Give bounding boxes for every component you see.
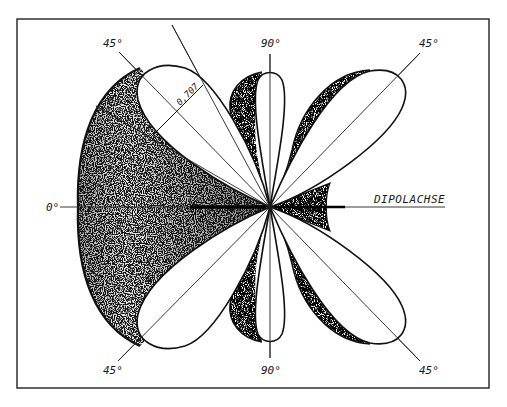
label-90-top: 90°: [261, 37, 281, 50]
label-45-bottom-left: 45°: [103, 364, 123, 377]
label-45-top-right: 45°: [419, 37, 439, 50]
label-45-bottom-right: 45°: [419, 364, 439, 377]
radiation-pattern-diagram: 45° 90° 45° 0° DIPOLACHSE 45° 90° 45° 0,…: [0, 0, 507, 407]
label-45-top-left: 45°: [103, 37, 123, 50]
label-90-bottom: 90°: [261, 364, 281, 377]
label-dipole-axis: DIPOLACHSE: [373, 193, 445, 206]
label-0-left: 0°: [46, 201, 59, 214]
